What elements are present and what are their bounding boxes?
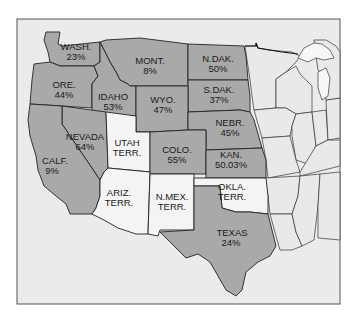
- label-ndak-value: 50%: [208, 63, 228, 74]
- alabama: [318, 172, 340, 240]
- label-sdak-value: 37%: [209, 94, 229, 105]
- label-colo-value: 55%: [167, 154, 187, 165]
- label-kan-value: 50.03%: [215, 159, 248, 170]
- ohio: [326, 98, 340, 140]
- label-nevada-value: 64%: [75, 141, 95, 152]
- label-okla-value: TERR.: [218, 191, 247, 202]
- label-nmex-value: TERR.: [158, 201, 187, 212]
- label-texas-value: 24%: [221, 237, 241, 248]
- label-calf-value: 9%: [45, 165, 59, 176]
- label-wyo-value: 47%: [153, 104, 173, 115]
- label-ariz-value: TERR.: [105, 197, 134, 208]
- label-idaho-value: 53%: [103, 101, 123, 112]
- map: WASH. 23% MONT. 8% N.DAK. 50% S.DAK. 37%…: [0, 0, 354, 319]
- label-wash-value: 23%: [66, 51, 86, 62]
- label-nebr-value: 45%: [220, 127, 240, 138]
- label-ore-value: 44%: [54, 89, 74, 100]
- label-utah-value: TERR.: [113, 147, 142, 158]
- label-mont-value: 8%: [143, 65, 157, 76]
